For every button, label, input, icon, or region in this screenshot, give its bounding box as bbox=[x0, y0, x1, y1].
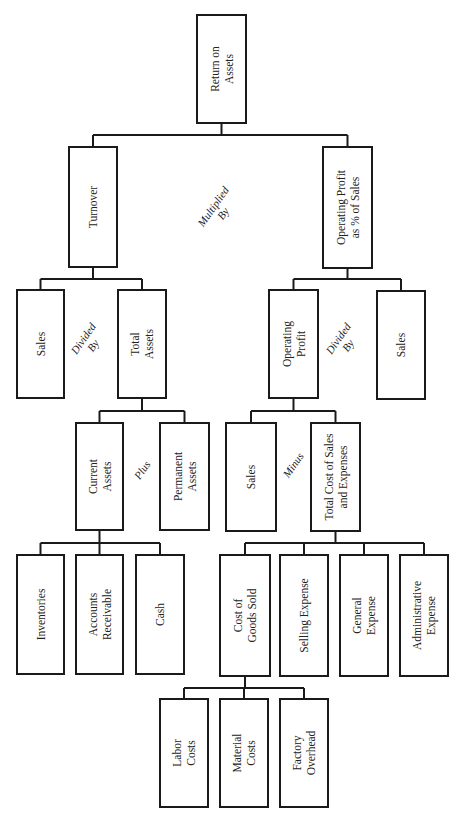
node-sales-2: Sales bbox=[377, 291, 425, 399]
node-selling-expense-label: Selling Expense bbox=[298, 578, 311, 652]
node-total-assets: TotalAssets bbox=[118, 290, 166, 398]
connector-current_assets bbox=[41, 530, 161, 555]
node-sales-3: Sales bbox=[226, 423, 276, 531]
node-total-cost-box bbox=[311, 423, 360, 531]
node-total-cost-label: Total Cost of Salesand Expenses bbox=[323, 433, 350, 521]
label-line: Assets bbox=[101, 461, 113, 492]
label-line: Permanent bbox=[172, 451, 184, 501]
node-permanent-assets-box bbox=[160, 423, 209, 530]
node-operating-profit: OperatingProfit bbox=[269, 290, 318, 398]
node-total-assets-box bbox=[118, 290, 166, 398]
label-line: as % of Sales bbox=[349, 176, 361, 238]
node-factory-overhead-box bbox=[280, 699, 328, 807]
node-labor-costs-box bbox=[160, 699, 208, 807]
label-line: Turnover bbox=[87, 186, 99, 229]
node-operating-profit-box bbox=[269, 290, 318, 398]
label-line: Assets bbox=[143, 328, 155, 359]
label-line: Goods Sold bbox=[246, 588, 258, 642]
label-line: Total bbox=[129, 332, 141, 355]
node-factory-overhead: FactoryOverhead bbox=[280, 699, 328, 807]
label-line: Profit bbox=[295, 330, 307, 357]
connector-cogs bbox=[184, 676, 304, 699]
node-cash: Cash bbox=[136, 555, 184, 674]
operator-divided-by-right: DividedBy bbox=[323, 320, 363, 364]
node-cash-label: Cash bbox=[154, 603, 166, 626]
label-line: Inventories bbox=[35, 588, 47, 640]
node-general-expense: GeneralExpense bbox=[340, 555, 388, 676]
connector-roa bbox=[93, 123, 348, 147]
node-op-profit-pct: Operating Profitas % of Sales bbox=[323, 147, 372, 268]
node-general-expense-label: GeneralExpense bbox=[351, 596, 378, 635]
node-selling-expense: Selling Expense bbox=[280, 555, 328, 676]
node-general-expense-box bbox=[340, 555, 388, 676]
label-line: Expense bbox=[425, 596, 438, 635]
label-line: Expense bbox=[365, 596, 378, 635]
connector-op_profit_pct bbox=[294, 268, 402, 291]
node-cogs: Cost ofGoods Sold bbox=[220, 555, 270, 676]
node-material-costs-box bbox=[220, 699, 268, 807]
label-line: Overhead bbox=[305, 730, 317, 775]
label-line: Operating bbox=[281, 321, 294, 367]
label-line: Sales bbox=[245, 464, 257, 489]
label-line: General bbox=[351, 597, 363, 633]
operator-minus: Minus bbox=[280, 450, 306, 480]
connector-turnover bbox=[41, 267, 143, 290]
label-line: Accounts bbox=[87, 592, 99, 636]
node-roa: Return onAssets bbox=[197, 15, 246, 123]
label-line: Material bbox=[231, 734, 243, 773]
label-line: Current bbox=[87, 458, 99, 494]
label-line: Total Cost of Sales bbox=[323, 433, 335, 521]
label-line: Labor bbox=[171, 739, 183, 767]
label-line: Cost of bbox=[232, 599, 244, 633]
operator-line: Plus bbox=[131, 459, 153, 483]
label-line: Factory bbox=[291, 735, 304, 770]
label-line: Costs bbox=[185, 740, 197, 766]
operator-divided-by-left: DividedBy bbox=[68, 320, 108, 364]
node-op-profit-pct-box bbox=[323, 147, 372, 268]
operator-line: Minus bbox=[280, 450, 306, 480]
node-sales-1-label: Sales bbox=[35, 331, 47, 356]
operator-plus: Plus bbox=[131, 459, 153, 483]
node-inventories: Inventories bbox=[17, 555, 64, 674]
node-current-assets-box bbox=[76, 423, 123, 530]
node-sales-1: Sales bbox=[17, 290, 64, 398]
label-line: Assets bbox=[223, 53, 235, 84]
label-line: Assets bbox=[186, 461, 198, 492]
node-cogs-box bbox=[220, 555, 270, 676]
node-labor-costs: LaborCosts bbox=[160, 699, 208, 807]
label-line: Receivable bbox=[101, 589, 113, 640]
connector-operating_profit bbox=[251, 398, 336, 423]
label-line: Cash bbox=[154, 603, 166, 626]
connector-total_cost bbox=[245, 531, 424, 555]
label-line: Costs bbox=[245, 740, 257, 766]
node-roa-box bbox=[197, 15, 246, 123]
node-turnover-label: Turnover bbox=[87, 186, 99, 229]
node-accounts-receivable-box bbox=[76, 555, 123, 674]
node-total-cost: Total Cost of Salesand Expenses bbox=[311, 423, 360, 531]
node-accounts-receivable: AccountsReceivable bbox=[76, 555, 123, 674]
node-sales-3-label: Sales bbox=[245, 464, 257, 489]
label-line: Selling Expense bbox=[298, 578, 311, 652]
node-turnover: Turnover bbox=[69, 147, 117, 267]
node-current-assets: CurrentAssets bbox=[76, 423, 123, 530]
node-inventories-label: Inventories bbox=[35, 588, 47, 640]
label-line: Administrative bbox=[411, 581, 423, 650]
operator-line: Multiplied bbox=[194, 184, 231, 230]
node-administrative-expense: AdministrativeExpense bbox=[400, 555, 448, 676]
node-administrative-expense-box bbox=[400, 555, 448, 676]
operator-multiplied-by: MultipliedBy bbox=[194, 184, 241, 237]
node-permanent-assets: PermanentAssets bbox=[160, 423, 209, 530]
label-line: and Expenses bbox=[337, 445, 350, 508]
label-line: Return on bbox=[209, 46, 221, 92]
node-sales-2-label: Sales bbox=[395, 332, 407, 357]
node-material-costs: MaterialCosts bbox=[220, 699, 268, 807]
label-line: Operating Profit bbox=[335, 169, 348, 245]
label-line: Sales bbox=[35, 331, 47, 356]
roa-tree-diagram: Return onAssetsTurnoverOperating Profita… bbox=[0, 0, 455, 815]
connector-total_assets bbox=[100, 398, 185, 423]
label-line: Sales bbox=[395, 332, 407, 357]
